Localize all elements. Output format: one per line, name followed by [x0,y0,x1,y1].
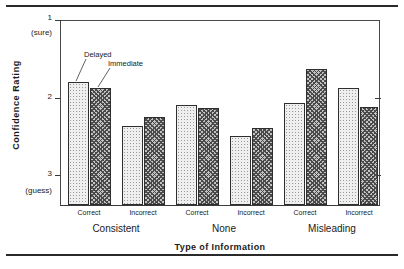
y-tick-label-2: 2 [22,92,52,101]
bar-none-correct-delayed [176,105,197,205]
y-tick-2-left [55,98,61,99]
bar-none-incorrect-delayed [230,136,251,205]
y-tick-label-1: 1 [22,13,52,22]
bar-consistent-incorrect-delayed [122,126,143,205]
x-group-label-none: None [164,223,284,234]
y-tick-label-3: 3 [22,169,52,178]
y-top-paren-label: (sure) [6,28,52,37]
x-group-label-misleading: Misleading [272,223,392,234]
bar-misleading-incorrect-immediate [360,107,378,205]
x-pair-label-none-correct: Correct [171,209,223,216]
y-tick-1-left [55,20,61,21]
x-group-label-consistent: Consistent [56,223,176,234]
y-tick-3-left [55,175,61,176]
x-axis-title: Type of Information [60,242,380,252]
bar-misleading-incorrect-delayed [338,88,359,205]
y-tick-2-right [375,98,381,99]
annotation-immediate: Immediate [108,59,143,68]
y-bottom-paren-label: (guess) [6,186,52,195]
top-rule [6,5,398,7]
bar-misleading-correct-immediate [306,69,327,205]
bar-misleading-correct-delayed [284,103,305,205]
x-pair-label-misleading-incorrect: Incorrect [333,209,385,216]
bar-none-incorrect-immediate [252,128,273,205]
bottom-rule [6,254,398,256]
x-pair-label-consistent-incorrect: Incorrect [117,209,169,216]
bar-none-correct-immediate [198,108,219,205]
annotation-delayed: Delayed [84,50,112,59]
bar-consistent-incorrect-immediate [144,117,165,205]
x-axis-baseline [60,205,380,206]
x-pair-label-consistent-correct: Correct [63,209,115,216]
x-pair-label-misleading-correct: Correct [279,209,331,216]
y-axis-title: Confidence Rating [11,45,21,165]
bar-consistent-correct-delayed [68,82,89,205]
x-pair-label-none-incorrect: Incorrect [225,209,277,216]
figure-bar-chart-confidence-rating: 1 2 3 (sure) (guess) Confidence Rating T… [0,0,404,269]
bar-consistent-correct-immediate [90,88,111,205]
